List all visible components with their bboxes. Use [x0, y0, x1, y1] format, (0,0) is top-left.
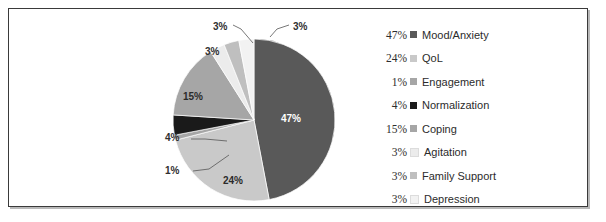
legend-percent: 47% — [371, 29, 410, 41]
legend-swatch-icon — [410, 125, 417, 132]
legend-label: Engagement — [422, 76, 484, 88]
legend-percent: 3% — [371, 146, 410, 158]
legend-item: 1%Engagement — [371, 70, 586, 94]
pie-label-agitation: 3% — [205, 46, 219, 57]
legend-label: Normalization — [422, 99, 489, 111]
legend-label: Coping — [422, 123, 457, 135]
pie-label-family-support: 3% — [213, 21, 227, 32]
legend-label: Depression — [424, 193, 480, 205]
legend-swatch-icon — [410, 31, 417, 38]
legend-item: 15%Coping — [371, 117, 586, 141]
pie-label-qol: 24% — [223, 175, 243, 186]
leader-line-depression — [270, 25, 289, 37]
legend-swatch-icon — [410, 195, 419, 204]
legend-swatch-icon — [410, 102, 417, 109]
pie-chart-svg — [129, 19, 379, 219]
legend-item: 3%Depression — [371, 188, 586, 212]
pie-label-depression: 3% — [293, 21, 307, 32]
pie-label-mood-anxiety: 47% — [281, 113, 301, 124]
pie-label-normalization: 4% — [165, 132, 179, 143]
legend-percent: 3% — [371, 193, 410, 205]
pie-label-coping: 15% — [183, 91, 203, 102]
legend-percent: 15% — [371, 123, 410, 135]
legend-label: Agitation — [424, 146, 467, 158]
legend-swatch-icon — [410, 148, 419, 157]
legend-swatch-icon — [410, 78, 417, 85]
legend-item: 4%Normalization — [371, 94, 586, 118]
legend-percent: 3% — [371, 170, 410, 182]
legend-percent: 1% — [371, 76, 410, 88]
legend-label: Family Support — [422, 170, 496, 182]
legend-percent: 24% — [371, 52, 410, 64]
legend-item: 3%Agitation — [371, 141, 586, 165]
legend-item: 24%QoL — [371, 47, 586, 71]
legend-label: QoL — [422, 52, 443, 64]
legend-item: 3%Family Support — [371, 164, 586, 188]
legend-swatch-icon — [410, 55, 417, 62]
chart-figure: 47% 24% 1% 4% 15% 3% 3% 3% 47%Mood/Anxie… — [0, 0, 606, 222]
legend-label: Mood/Anxiety — [422, 29, 489, 41]
pie-chart: 47% 24% 1% 4% 15% 3% 3% 3% — [129, 19, 379, 219]
pie-slices — [173, 39, 335, 201]
legend-percent: 4% — [371, 99, 410, 111]
figure-frame: 47% 24% 1% 4% 15% 3% 3% 3% 47%Mood/Anxie… — [8, 8, 588, 207]
chart-legend: 47%Mood/Anxiety24%QoL1%Engagement4%Norma… — [371, 23, 586, 211]
legend-swatch-icon — [410, 172, 417, 179]
legend-item: 47%Mood/Anxiety — [371, 23, 586, 47]
pie-label-engagement: 1% — [165, 165, 179, 176]
